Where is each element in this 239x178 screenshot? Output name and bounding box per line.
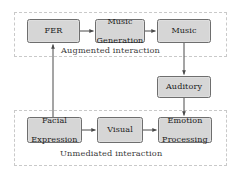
node-auditory-label: Auditory — [164, 82, 204, 92]
group-label-unmediated: Unmediated interaction — [60, 148, 162, 158]
node-emotion-processing-label-line2: Processing — [160, 135, 210, 145]
node-visual[interactable]: Visual — [97, 117, 143, 143]
node-auditory[interactable]: Auditory — [157, 76, 211, 98]
node-music-label: Music — [169, 26, 198, 36]
node-emotion-processing[interactable]: Emotion Processing — [158, 117, 212, 143]
node-emotion-processing-label-line1: Emotion — [160, 116, 210, 126]
node-facial-expression[interactable]: Facial Expression — [27, 117, 82, 143]
node-fer-label: FER — [43, 26, 65, 36]
diagram-canvas: Augmented interaction Unmediated interac… — [0, 0, 239, 178]
group-label-augmented: Augmented interaction — [61, 45, 160, 55]
node-facial-expression-label-line1: Facial — [29, 116, 79, 126]
node-visual-label: Visual — [105, 125, 135, 135]
node-facial-expression-label-line2: Expression — [29, 135, 79, 145]
node-fer[interactable]: FER — [27, 19, 80, 43]
node-music-generation[interactable]: Music Generation — [95, 19, 145, 43]
node-music-generation-label-line2: Generation — [95, 36, 146, 46]
node-music-generation-label-line1: Music — [95, 17, 146, 27]
node-music[interactable]: Music — [157, 19, 211, 43]
